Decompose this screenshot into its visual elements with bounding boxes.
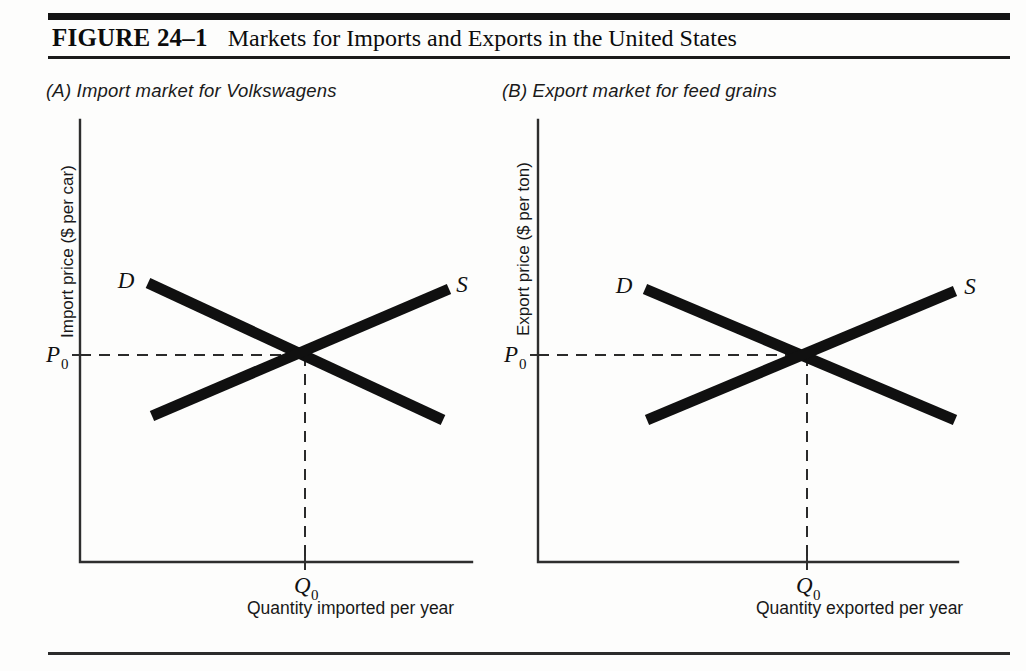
bottom-rule <box>48 652 1010 655</box>
panel-b-export-market: (B) Export market for feed grains Export… <box>458 0 958 671</box>
panel-b-supply-label: S <box>964 274 976 299</box>
panel-a-price-subscript: 0 <box>61 356 69 372</box>
panel-b-axes <box>538 120 958 562</box>
panel-a-demand-label: D <box>117 268 135 293</box>
panel-a-x-axis-label: Quantity imported per year <box>247 598 454 619</box>
panel-a-price-label: P <box>45 342 60 367</box>
panel-b-price-subscript: 0 <box>519 356 527 372</box>
panel-a-import-market: (A) Import market for Volkswagens Import… <box>0 0 500 671</box>
panel-a-quantity-label: Q <box>294 573 311 598</box>
panel-b-demand-label: D <box>615 273 633 298</box>
panel-b-x-axis-label: Quantity exported per year <box>756 598 963 619</box>
panel-b-quantity-label: Q <box>796 573 813 598</box>
panel-b-price-label: P <box>503 342 518 367</box>
panel-a-plot: D S P 0 Q 0 <box>0 0 500 671</box>
figure-container: FIGURE 24–1 Markets for Imports and Expo… <box>0 0 1026 671</box>
panel-b-plot: D S P 0 Q 0 <box>458 0 958 671</box>
